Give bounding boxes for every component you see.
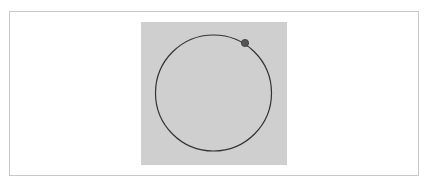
animation-stage bbox=[141, 22, 287, 165]
orbiting-dot[interactable] bbox=[241, 39, 248, 46]
orbit-drawing bbox=[141, 22, 287, 165]
orbit-circle bbox=[156, 35, 272, 151]
